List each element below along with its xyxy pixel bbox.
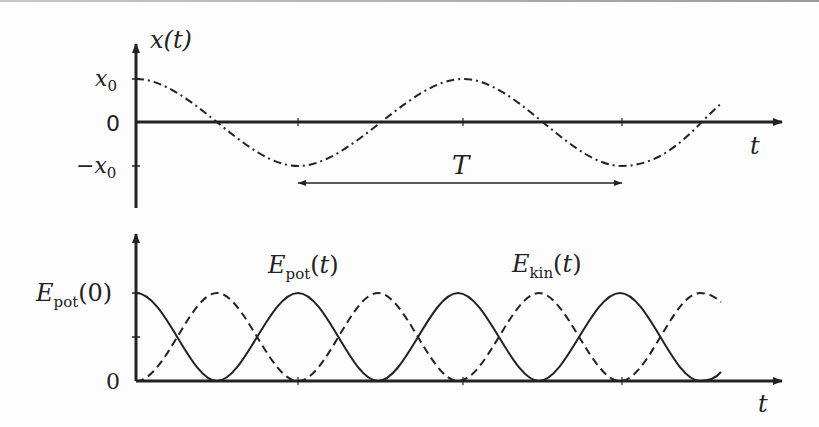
label-epot-t: Epot(t) — [267, 251, 339, 283]
tick-label-x0: x0 — [95, 66, 117, 95]
oscillator-figure: x(t) x0 0 −x0 t T Epot(0) 0 Epot(t) Ekin… — [0, 0, 819, 427]
tick-label-zero: 0 — [106, 111, 120, 136]
kinetic-energy-curve — [136, 293, 721, 381]
tick-label-minus-x0: −x0 — [76, 153, 116, 182]
tick-label-epot0: Epot(0) — [35, 279, 112, 311]
potential-energy-curve — [136, 293, 721, 381]
x-axis-label-t-bottom: t — [758, 390, 768, 418]
tick-label-zero-energy: 0 — [106, 369, 120, 394]
top-panel: x(t) x0 0 −x0 t T — [76, 26, 782, 208]
x-axis-label-t: t — [750, 132, 760, 160]
bottom-panel: Epot(0) 0 Epot(t) Ekin(t) t — [35, 234, 782, 418]
figure-svg: x(t) x0 0 −x0 t T Epot(0) 0 Epot(t) Ekin… — [0, 0, 819, 427]
y-axis-label-x-of-t: x(t) — [150, 26, 192, 54]
label-ekin-t: Ekin(t) — [511, 250, 582, 282]
period-label-T: T — [452, 150, 471, 180]
